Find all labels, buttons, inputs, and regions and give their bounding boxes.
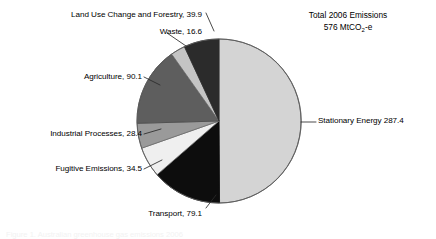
chart-title-units-prefix: 576 MtCO <box>324 22 362 32</box>
leader-line-land-use <box>206 13 214 31</box>
pie-slice-stationary-energy[interactable] <box>219 39 301 203</box>
slice-label-land-use-change-and-forestry: Land Use Change and Forestry, 39.9 <box>16 10 202 21</box>
page-footer-ghost-text: Figure 1. Australian greenhouse gas emis… <box>6 230 216 239</box>
chart-title-line1: Total 2006 Emissions <box>268 10 428 22</box>
slice-label-industrial-processes: Industrial Processes, 28.4 <box>2 129 142 140</box>
slice-label-transport: Transport, 79.1 <box>92 209 202 220</box>
chart-title-units-subscript: 2 <box>362 27 365 33</box>
slice-label-fugitive-emissions: Fugitive Emissions, 34.5 <box>14 164 142 175</box>
chart-title-line2: 576 MtCO2-e <box>268 22 428 35</box>
slice-label-agriculture: Agriculture, 90.1 <box>16 72 142 83</box>
chart-title: Total 2006 Emissions 576 MtCO2-e <box>268 10 428 34</box>
chart-page: Total 2006 Emissions 576 MtCO2-e Land Us… <box>0 0 436 239</box>
slice-label-stationary-energy: Stationary Energy 287.4 <box>318 116 436 127</box>
pie-slices <box>137 39 301 203</box>
chart-title-units-suffix: -e <box>365 22 372 32</box>
slice-label-waste: Waste, 16.6 <box>56 27 202 38</box>
